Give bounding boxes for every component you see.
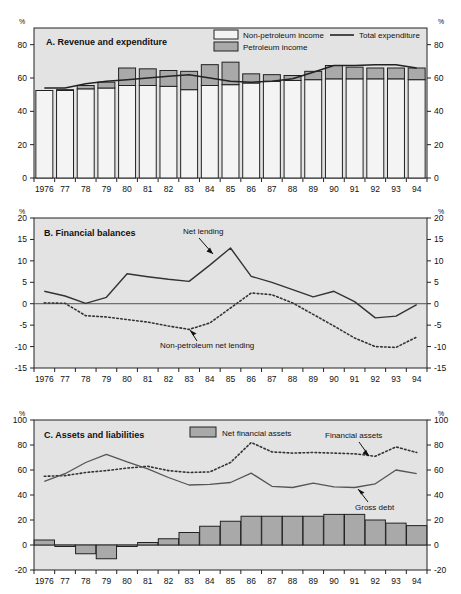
bar-non-petroleum-income xyxy=(139,86,156,179)
bar-petroleum-income xyxy=(119,68,136,86)
bar-petroleum-income xyxy=(367,68,384,79)
y-tick-label-left: 0 xyxy=(22,173,27,183)
y-tick-label-left: 40 xyxy=(18,106,28,116)
bar-net-financial-assets xyxy=(344,514,364,545)
y-tick-label-right: -15 xyxy=(434,363,447,373)
y-tick-label-left: 60 xyxy=(18,465,28,475)
y-tick-label-left: 100 xyxy=(13,415,27,425)
legend-swatch-petroleum-income xyxy=(214,42,238,51)
y-tick-label-left: 10 xyxy=(18,256,28,266)
bar-non-petroleum-income xyxy=(305,80,322,178)
x-tick-label: 79 xyxy=(102,576,112,586)
panel-b-caption: B. Financial balances xyxy=(44,228,136,238)
x-tick-label: 94 xyxy=(412,374,422,384)
panel-c-chart: %%-20-2000202040406060808010010019767778… xyxy=(0,394,461,594)
bar-non-petroleum-income xyxy=(119,86,136,179)
bar-net-financial-assets xyxy=(179,533,199,546)
x-tick-label: 89 xyxy=(309,576,319,586)
y-tick-label-left: 20 xyxy=(18,515,28,525)
y-tick-label-right: 60 xyxy=(434,465,444,475)
x-tick-label: 87 xyxy=(267,374,277,384)
x-tick-label: 83 xyxy=(184,374,194,384)
y-tick-label-right: 20 xyxy=(434,515,444,525)
y-tick-label-left: -10 xyxy=(15,342,28,352)
x-tick-label: 93 xyxy=(391,184,401,194)
x-tick-label: 79 xyxy=(102,374,112,384)
x-tick-label: 86 xyxy=(246,184,256,194)
bar-non-petroleum-income xyxy=(346,79,363,178)
financial-assets-annotation: Financial assets xyxy=(325,431,382,440)
y-tick-label-left: 80 xyxy=(18,40,28,50)
panel-a: %%00202040406060808019767778798081828384… xyxy=(0,0,461,196)
x-tick-label: 1976 xyxy=(35,576,54,586)
x-tick-label: 81 xyxy=(143,374,153,384)
x-tick-label: 91 xyxy=(350,576,360,586)
bar-net-financial-assets xyxy=(262,516,282,545)
y-tick-label-right: 80 xyxy=(434,40,444,50)
bar-non-petroleum-income xyxy=(222,85,239,178)
y-tick-label-right: -20 xyxy=(434,565,447,575)
bar-net-financial-assets xyxy=(138,543,158,546)
bar-petroleum-income xyxy=(98,82,115,88)
panel-b-chart: %%-15-15-10-10-5-50055101015152020197677… xyxy=(0,196,461,394)
x-tick-label: 84 xyxy=(205,184,215,194)
legend-label-net-financial-assets: Net financial assets xyxy=(222,429,291,438)
x-tick-label: 77 xyxy=(60,184,70,194)
bar-petroleum-income xyxy=(201,65,218,86)
x-tick-label: 1976 xyxy=(35,374,54,384)
legend-label-total-expenditure: Total expenditure xyxy=(359,31,420,40)
x-tick-label: 86 xyxy=(246,576,256,586)
non-petroleum-net-lending-annotation: Non-petroleum net lending xyxy=(160,341,254,350)
unit-label-right: % xyxy=(438,18,444,25)
x-tick-label: 94 xyxy=(412,576,422,586)
bar-net-financial-assets xyxy=(282,516,302,545)
y-tick-label-left: 40 xyxy=(18,490,28,500)
y-tick-label-right: 20 xyxy=(434,140,444,150)
y-tick-label-left: -5 xyxy=(19,320,27,330)
bar-net-financial-assets xyxy=(117,545,137,547)
net-lending-annotation: Net lending xyxy=(183,227,223,236)
x-tick-label: 83 xyxy=(184,576,194,586)
bar-net-financial-assets xyxy=(220,521,240,545)
y-tick-label-right: 0 xyxy=(434,173,439,183)
x-tick-label: 84 xyxy=(205,374,215,384)
x-tick-label: 91 xyxy=(350,184,360,194)
y-tick-label-right: 100 xyxy=(434,415,448,425)
bar-net-financial-assets xyxy=(96,545,116,559)
y-tick-label-right: 80 xyxy=(434,440,444,450)
bar-non-petroleum-income xyxy=(36,91,53,179)
x-tick-label: 1976 xyxy=(35,184,54,194)
y-tick-label-right: 5 xyxy=(434,277,439,287)
bar-non-petroleum-income xyxy=(367,79,384,178)
x-tick-label: 85 xyxy=(226,184,236,194)
y-tick-label-right: 40 xyxy=(434,490,444,500)
gross-debt-annotation: Gross debt xyxy=(355,503,395,512)
figure-root: %%00202040406060808019767778798081828384… xyxy=(0,0,461,594)
x-tick-label: 89 xyxy=(309,184,319,194)
y-tick-label-left: -15 xyxy=(15,363,28,373)
bar-petroleum-income xyxy=(160,71,177,87)
legend-swatch-net-financial-assets xyxy=(190,427,216,437)
x-tick-label: 90 xyxy=(329,184,339,194)
x-tick-label: 80 xyxy=(122,184,132,194)
bar-net-financial-assets xyxy=(365,520,385,545)
panel-b: %%-15-15-10-10-5-50055101015152020197677… xyxy=(0,196,461,394)
x-tick-label: 84 xyxy=(205,576,215,586)
y-tick-label-right: -10 xyxy=(434,342,447,352)
x-tick-label: 82 xyxy=(164,184,174,194)
y-tick-label-left: 5 xyxy=(22,277,27,287)
bar-net-financial-assets xyxy=(303,516,323,545)
x-tick-label: 90 xyxy=(329,374,339,384)
bar-non-petroleum-income xyxy=(77,89,94,178)
bar-non-petroleum-income xyxy=(243,83,260,178)
bar-net-financial-assets xyxy=(386,523,406,545)
x-tick-label: 77 xyxy=(60,374,70,384)
x-tick-label: 92 xyxy=(371,184,381,194)
x-tick-label: 92 xyxy=(371,576,381,586)
bar-non-petroleum-income xyxy=(325,79,342,178)
x-tick-label: 87 xyxy=(267,184,277,194)
bar-net-financial-assets xyxy=(407,526,427,545)
y-tick-label-right: -5 xyxy=(434,320,442,330)
bar-net-financial-assets xyxy=(200,526,220,545)
bar-net-financial-assets xyxy=(55,545,75,547)
